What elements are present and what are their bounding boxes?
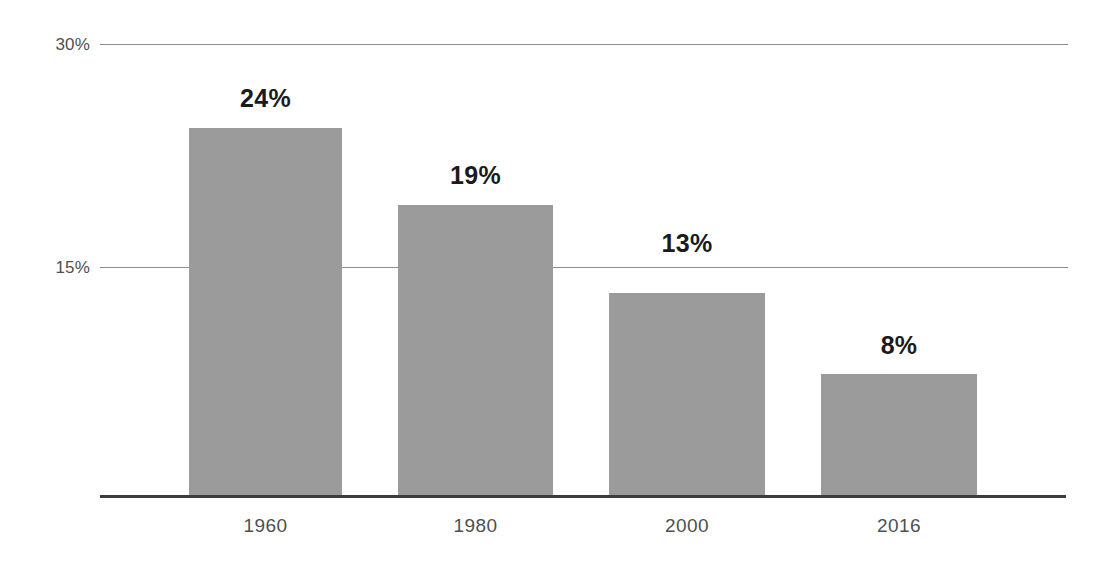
bar-1980: [398, 205, 553, 495]
y-axis-tick-label-15: 15%: [20, 258, 90, 278]
x-axis-tick-label-2000: 2000: [609, 515, 765, 537]
x-axis-tick-label-1980: 1980: [398, 515, 553, 537]
gridline-30: [100, 44, 1068, 45]
x-axis-line: [100, 495, 1066, 498]
bar-1960: [189, 128, 342, 495]
bar-chart: 30% 15% 24% 19% 13% 8% 1960 1980 2000 20…: [0, 0, 1111, 570]
bar-value-label-1980: 19%: [398, 161, 553, 190]
bar-2000: [609, 293, 765, 495]
bar-value-label-2000: 13%: [609, 229, 765, 258]
x-axis-tick-label-1960: 1960: [189, 515, 342, 537]
y-axis-tick-label-30: 30%: [20, 35, 90, 55]
plot-area: 30% 15% 24% 19% 13% 8% 1960 1980 2000 20…: [0, 0, 1111, 570]
x-axis-tick-label-2016: 2016: [821, 515, 977, 537]
bar-value-label-2016: 8%: [821, 331, 977, 360]
bar-value-label-1960: 24%: [189, 84, 342, 113]
bar-2016: [821, 374, 977, 495]
